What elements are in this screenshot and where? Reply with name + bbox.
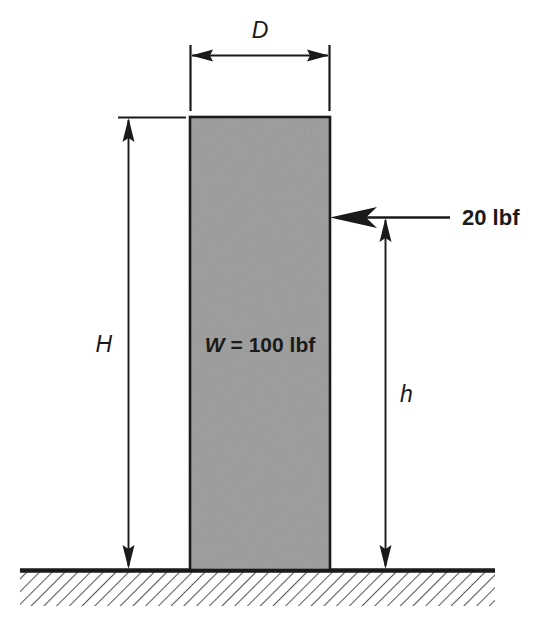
force-label: 20 lbf [462, 205, 520, 230]
total-height-dimension-label: H [95, 331, 112, 357]
force-height-dimension-label: h [400, 381, 413, 407]
width-arrowhead-right [307, 50, 329, 62]
statics-diagram-canvas: D H 20 lbf [0, 0, 537, 619]
width-dimension-label: D [252, 17, 269, 43]
total-height-dimension-group: H [95, 118, 186, 570]
width-dimension-group: D [191, 17, 330, 111]
weight-label-group: W= 100 lbf [205, 333, 316, 356]
ground-group [20, 571, 495, 607]
ground-hatching [20, 572, 495, 606]
weight-label: W= 100 lbf [205, 333, 316, 356]
weight-symbol: W [205, 333, 227, 356]
width-arrowhead-left [191, 50, 213, 62]
figure-root: D H 20 lbf [0, 0, 537, 619]
applied-force-group: 20 lbf [330, 205, 520, 230]
weight-value: = 100 lbf [231, 333, 317, 356]
force-height-dimension-group: h [380, 218, 413, 569]
